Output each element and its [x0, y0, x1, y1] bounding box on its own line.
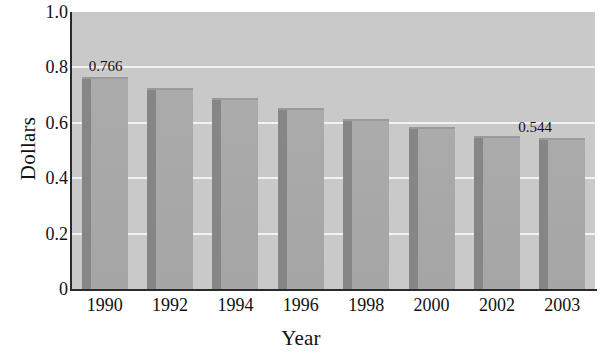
gridline	[72, 66, 595, 68]
bar-top-edge	[539, 138, 585, 140]
bar	[539, 138, 585, 289]
y-tick-label: 0.6	[22, 114, 68, 132]
bar-side-shadow	[409, 127, 418, 289]
y-tick-label: 0.4	[22, 169, 68, 187]
x-axis-line	[70, 289, 597, 291]
bar-side-shadow	[82, 77, 91, 289]
bar	[212, 98, 258, 289]
plot-area	[72, 12, 595, 289]
y-tick-label: 1.0	[22, 3, 68, 21]
bar-side-shadow	[539, 138, 548, 289]
bar-top-edge	[343, 119, 389, 121]
bar	[147, 88, 193, 289]
bar-top-edge	[212, 98, 258, 100]
bar	[343, 119, 389, 289]
bar	[474, 136, 520, 289]
bar-side-shadow	[147, 88, 156, 289]
y-axis-tick-labels: 00.20.40.60.81.0	[14, 0, 68, 354]
bar-side-shadow	[212, 98, 221, 289]
bar-top-edge	[474, 136, 520, 138]
bar-top-edge	[147, 88, 193, 90]
x-axis-title: Year	[0, 326, 602, 351]
x-tick-label: 2003	[522, 296, 602, 314]
bar	[82, 77, 128, 289]
bar-value-label: 0.766	[89, 59, 123, 74]
bar-value-label: 0.544	[518, 120, 552, 135]
bar-chart: Dollars 00.20.40.60.81.0 Year 19900.7661…	[0, 0, 602, 354]
bar-top-edge	[82, 77, 128, 79]
bar	[278, 108, 324, 289]
y-tick-label: 0.8	[22, 58, 68, 76]
bar	[409, 127, 455, 289]
bar-side-shadow	[278, 108, 287, 289]
bar-side-shadow	[343, 119, 352, 289]
bar-side-shadow	[474, 136, 483, 289]
bar-top-edge	[409, 127, 455, 129]
y-tick-label: 0	[22, 280, 68, 298]
bar-top-edge	[278, 108, 324, 110]
y-tick-label: 0.2	[22, 225, 68, 243]
